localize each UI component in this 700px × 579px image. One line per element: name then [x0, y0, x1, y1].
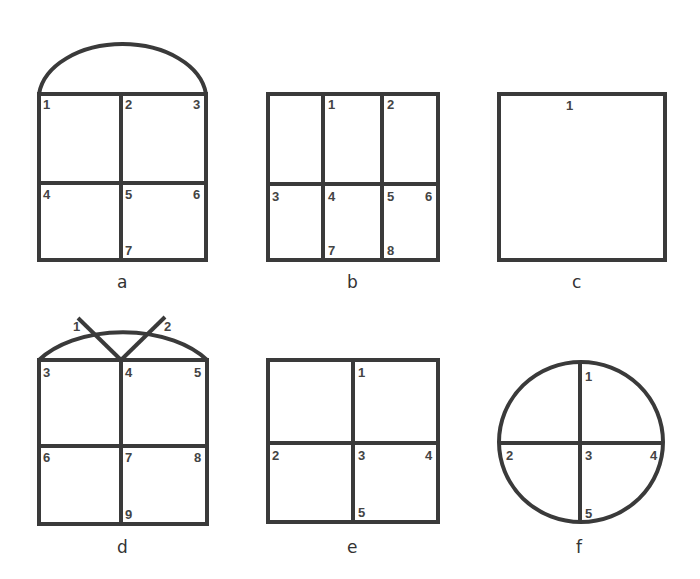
diagram-d: 1 2 3 4 5 6 7 8 9 d	[39, 317, 207, 557]
diagram-f-label-3: 3	[585, 448, 592, 463]
diagram-b-label-6: 6	[425, 189, 432, 204]
diagram-c: 1 c	[499, 94, 665, 292]
diagram-a-label-5: 5	[125, 187, 132, 202]
diagram-c-label-1: 1	[566, 98, 573, 113]
diagram-e: 1 2 3 4 5 e	[268, 360, 438, 557]
diagram-e-label-5: 5	[358, 505, 365, 520]
diagram-c-caption: c	[572, 272, 581, 292]
diagram-d-label-3: 3	[43, 365, 50, 380]
diagram-d-label-4: 4	[125, 365, 133, 380]
diagram-f-label-2: 2	[506, 448, 513, 463]
diagram-d-label-5: 5	[194, 365, 201, 380]
diagram-b: 1 2 3 4 5 6 7 8 b	[268, 94, 438, 292]
diagram-a-label-7: 7	[125, 243, 132, 258]
diagram-d-fan-left	[78, 318, 121, 360]
diagram-a: 1 2 3 4 5 6 7 a	[39, 44, 206, 292]
diagram-d-label-9: 9	[125, 507, 132, 522]
diagram-d-fan-right	[121, 317, 165, 360]
diagram-d-caption: d	[117, 537, 128, 557]
diagram-a-label-6: 6	[193, 187, 200, 202]
diagram-f: 1 2 3 4 5 f	[499, 362, 663, 557]
diagram-c-frame	[499, 94, 665, 260]
diagram-d-label-6: 6	[43, 450, 50, 465]
diagram-a-label-1: 1	[43, 97, 50, 112]
diagram-e-label-3: 3	[358, 448, 365, 463]
diagram-d-label-2: 2	[164, 319, 171, 334]
diagram-a-caption: a	[117, 272, 127, 292]
diagram-a-arch	[39, 44, 206, 94]
diagram-d-label-8: 8	[194, 450, 201, 465]
diagram-f-label-4: 4	[650, 448, 658, 463]
diagram-b-label-3: 3	[272, 189, 279, 204]
diagram-b-label-8: 8	[387, 243, 394, 258]
diagram-f-label-5: 5	[585, 506, 592, 521]
diagram-e-label-1: 1	[358, 365, 365, 380]
diagram-b-label-2: 2	[387, 97, 394, 112]
diagram-b-label-5: 5	[387, 189, 394, 204]
diagram-b-label-4: 4	[328, 189, 336, 204]
diagram-a-label-3: 3	[193, 97, 200, 112]
diagram-b-frame	[268, 94, 438, 260]
diagram-f-label-1: 1	[585, 369, 592, 384]
diagram-d-label-7: 7	[125, 450, 132, 465]
diagram-b-caption: b	[347, 272, 358, 292]
diagram-b-label-7: 7	[328, 243, 335, 258]
diagram-b-label-1: 1	[328, 97, 335, 112]
diagram-d-label-1: 1	[73, 319, 80, 334]
diagram-a-label-4: 4	[43, 187, 51, 202]
diagram-e-label-4: 4	[425, 448, 433, 463]
diagram-e-caption: e	[347, 537, 357, 557]
diagram-f-caption: f	[576, 537, 583, 557]
window-diagrams-figure: 1 2 3 4 5 6 7 a 1 2 3 4 5 6 7 8 b 1 c 1	[0, 0, 700, 579]
diagram-e-label-2: 2	[272, 448, 279, 463]
diagram-a-label-2: 2	[125, 97, 132, 112]
